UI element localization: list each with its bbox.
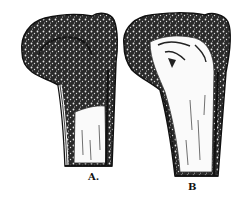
illustration-canvas bbox=[0, 0, 236, 197]
bone-section-illustration: A. B bbox=[0, 0, 236, 197]
bone-a-medullary-canal bbox=[74, 106, 106, 163]
label-specimen-b: B bbox=[188, 181, 196, 192]
bone-specimen-b bbox=[124, 13, 230, 176]
bone-specimen-a bbox=[22, 13, 118, 166]
label-specimen-a: A. bbox=[88, 171, 99, 182]
